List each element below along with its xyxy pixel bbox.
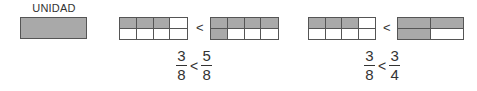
shaded-cell	[431, 18, 464, 29]
numerator: 3	[365, 48, 373, 64]
shaded-cell	[398, 29, 431, 40]
empty-cell	[359, 29, 376, 40]
fraction-3-8: 3 8	[176, 48, 187, 83]
denominator: 4	[391, 67, 399, 83]
empty-cell	[120, 29, 137, 40]
fraction-5-8: 5 8	[201, 48, 212, 83]
shaded-cell	[309, 18, 326, 29]
numerator: 3	[391, 48, 399, 64]
denominator: 8	[203, 67, 211, 83]
empty-cell	[170, 18, 187, 29]
empty-cell	[170, 29, 187, 40]
shaded-cell	[120, 18, 137, 29]
empty-cell	[359, 18, 376, 29]
shaded-cell	[154, 18, 171, 29]
empty-cell	[154, 29, 171, 40]
unit-whole-bar	[20, 17, 87, 39]
shaded-cell	[137, 18, 154, 29]
numerator: 5	[203, 48, 211, 64]
empty-cell	[228, 29, 245, 40]
shaded-cell	[211, 29, 228, 40]
fraction-3-4: 3 4	[389, 48, 400, 83]
denominator: 8	[365, 67, 373, 83]
less-than-sign: <	[190, 58, 198, 74]
empty-cell	[245, 29, 262, 40]
empty-cell	[261, 29, 278, 40]
fraction-bar-3-4	[397, 17, 464, 40]
empty-cell	[309, 29, 326, 40]
less-than-sign: <	[378, 58, 386, 74]
unit-label: UNIDAD	[20, 2, 88, 14]
denominator: 8	[177, 67, 185, 83]
shaded-cell	[398, 18, 431, 29]
fraction-3-8: 3 8	[364, 48, 375, 83]
shaded-cell	[326, 18, 343, 29]
fraction-comparison-2: 3 8 < 3 4	[364, 48, 400, 83]
shaded-cell	[342, 18, 359, 29]
empty-cell	[137, 29, 154, 40]
less-than-sign: <	[196, 20, 204, 35]
shaded-cell	[245, 18, 262, 29]
fraction-bar-3-8	[308, 17, 376, 40]
fraction-bar-3-8	[119, 17, 188, 40]
numerator: 3	[177, 48, 185, 64]
empty-cell	[326, 29, 343, 40]
shaded-cell	[211, 18, 228, 29]
shaded-cell	[261, 18, 278, 29]
shaded-cell	[228, 18, 245, 29]
fraction-comparison-1: 3 8 < 5 8	[176, 48, 212, 83]
empty-cell	[431, 29, 464, 40]
fraction-bar-5-8	[210, 17, 279, 40]
empty-cell	[342, 29, 359, 40]
less-than-sign: <	[383, 20, 391, 35]
